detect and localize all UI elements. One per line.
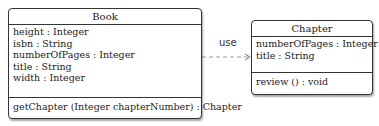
- class-book[interactable]: Book height : Integer isbn : String numb…: [8, 8, 202, 119]
- attribute: numberOfPages : Integer: [256, 38, 368, 50]
- relation-label: use: [219, 37, 237, 48]
- attribute: title : String: [13, 61, 197, 73]
- attribute: numberOfPages : Integer: [13, 49, 197, 61]
- methods-section: review () : void: [252, 73, 372, 89]
- methods-section: getChapter (Integer chapterNumber) : Cha…: [9, 98, 201, 114]
- class-name: Book: [9, 9, 201, 25]
- method: review () : void: [256, 76, 368, 88]
- attributes-section: height : Integer isbn : String numberOfP…: [9, 25, 201, 98]
- method: getChapter (Integer chapterNumber) : Cha…: [13, 101, 197, 113]
- class-chapter[interactable]: Chapter numberOfPages : Integer title : …: [251, 20, 373, 95]
- attribute: height : Integer: [13, 26, 197, 38]
- attributes-section: numberOfPages : Integer title : String: [252, 37, 372, 73]
- class-name: Chapter: [252, 21, 372, 37]
- attribute: title : String: [256, 50, 368, 62]
- attribute: isbn : String: [13, 38, 197, 50]
- attribute: width : Integer: [13, 72, 197, 84]
